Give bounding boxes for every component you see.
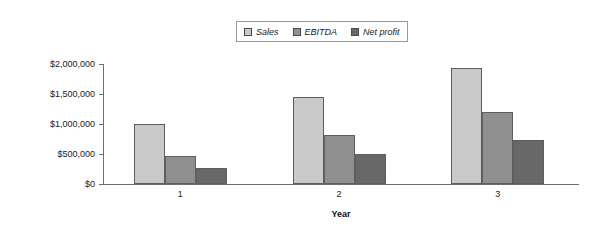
y-axis-tick-label: $0 xyxy=(3,180,95,189)
y-axis-line xyxy=(103,64,104,184)
bar[interactable] xyxy=(451,68,482,184)
bar[interactable] xyxy=(165,156,196,184)
legend-entry-ebitda: EBITDA xyxy=(293,27,338,37)
y-axis-tick-label: $1,000,000 xyxy=(3,120,95,129)
bar[interactable] xyxy=(324,135,355,184)
legend-label-net-profit: Net profit xyxy=(363,27,400,37)
bar[interactable] xyxy=(293,97,324,184)
y-axis-tick-mark xyxy=(99,154,103,155)
y-axis-tick-mark xyxy=(99,124,103,125)
bar[interactable] xyxy=(134,124,165,184)
y-axis-tick-mark xyxy=(99,94,103,95)
x-axis-category-label: 3 xyxy=(451,190,544,199)
legend-swatch-ebitda xyxy=(293,28,301,36)
bar[interactable] xyxy=(355,154,386,184)
legend-swatch-net-profit xyxy=(351,28,359,36)
bar[interactable] xyxy=(513,140,544,184)
bar-group xyxy=(293,64,386,184)
bar[interactable] xyxy=(196,168,227,184)
y-axis-tick-label: $2,000,000 xyxy=(3,60,95,69)
y-axis-tick-mark xyxy=(99,64,103,65)
bar-group xyxy=(134,64,227,184)
legend-entry-net-profit: Net profit xyxy=(351,27,400,37)
y-axis-tick-label: $500,000 xyxy=(3,150,95,159)
legend-swatch-sales xyxy=(244,28,252,36)
chart-legend: Sales EBITDA Net profit xyxy=(236,21,408,42)
plot-area: $0$500,000$1,000,000$1,500,000$2,000,000… xyxy=(103,64,579,184)
x-axis-line xyxy=(103,184,579,185)
bar[interactable] xyxy=(482,112,513,184)
bar-group xyxy=(451,64,544,184)
x-axis-category-label: 2 xyxy=(293,190,386,199)
y-axis-tick-label: $1,500,000 xyxy=(3,90,95,99)
legend-label-sales: Sales xyxy=(256,27,279,37)
y-axis-tick-mark xyxy=(99,184,103,185)
legend-label-ebitda: EBITDA xyxy=(305,27,338,37)
x-axis-title: Year xyxy=(103,209,579,219)
x-axis-category-label: 1 xyxy=(134,190,227,199)
legend-entry-sales: Sales xyxy=(244,27,279,37)
bar-chart: Sales EBITDA Net profit $0$500,000$1,000… xyxy=(0,0,601,230)
